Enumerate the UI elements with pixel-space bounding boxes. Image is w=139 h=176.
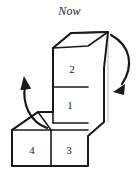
figure-container: Now: [0, 0, 139, 176]
arrow-left-head-icon: [18, 75, 31, 90]
block-silhouette: [12, 32, 108, 166]
block-outline-group: [12, 32, 108, 166]
arrow-right: [111, 35, 129, 95]
arrow-right-curve: [111, 35, 129, 84]
block-diagram-svg: [0, 0, 139, 176]
arrow-right-head-icon: [113, 84, 125, 95]
